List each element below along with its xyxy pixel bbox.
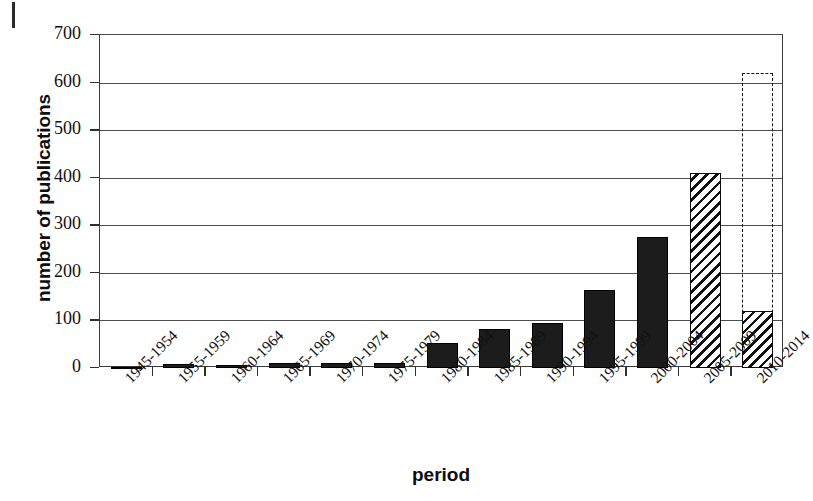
y-axis-tick-label: 200 (21, 261, 81, 282)
gridline (100, 320, 782, 321)
y-axis-tick-label: 300 (21, 213, 81, 234)
y-axis-tick-mark (90, 367, 99, 368)
y-axis-tick-label: 0 (21, 356, 81, 377)
y-axis-tick-label: 100 (21, 308, 81, 329)
gridline (100, 130, 782, 131)
y-axis-tick-label: 400 (21, 166, 81, 187)
y-axis-title: number of publications (33, 68, 55, 328)
y-axis-tick-label: 600 (21, 71, 81, 92)
gridline (100, 225, 782, 226)
y-axis-tick-mark (90, 34, 99, 35)
x-axis-title: period (99, 464, 783, 486)
plot-area (99, 34, 783, 367)
y-axis-tick-label: 500 (21, 118, 81, 139)
y-axis-tick-mark (90, 224, 99, 225)
y-axis-tick-mark (90, 272, 99, 273)
y-axis-tick-label: 700 (21, 23, 81, 44)
gridline (100, 178, 782, 179)
y-axis-tick-mark (90, 319, 99, 320)
gridline (100, 83, 782, 84)
y-axis-tick-mark (90, 177, 99, 178)
page-binding-mark (12, 2, 15, 28)
gridline (100, 273, 782, 274)
y-axis-tick-mark (90, 82, 99, 83)
y-axis-tick-mark (90, 129, 99, 130)
